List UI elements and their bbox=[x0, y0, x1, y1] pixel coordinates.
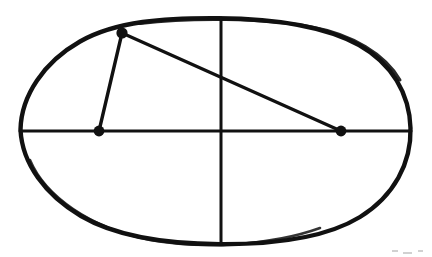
scan-speck bbox=[403, 252, 412, 254]
paper-background bbox=[0, 0, 432, 257]
point-on-ellipse bbox=[116, 27, 127, 38]
scan-speck bbox=[392, 250, 398, 252]
ellipse-diagram bbox=[0, 0, 432, 257]
scan-speck bbox=[418, 250, 423, 252]
point-right-on-axis bbox=[336, 126, 347, 137]
point-left-on-axis bbox=[94, 126, 105, 137]
figure-canvas bbox=[0, 0, 432, 257]
